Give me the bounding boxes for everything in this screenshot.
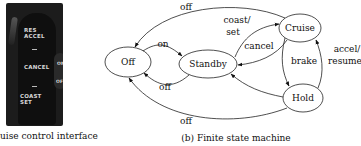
label-cruise-off: off [180,2,192,12]
label-standby-cruise-2: set [226,27,240,37]
state-hold-label: Hold [292,93,314,103]
label-off-standby: on [157,39,168,49]
edge-cruise-hold [282,38,289,86]
state-cruise-label: Cruise [285,23,315,33]
label-cruise-hold: brake [291,56,317,66]
label-standby-cruise-1: coast/ [223,15,251,25]
label-hold-cruise-2: resume [328,56,361,66]
label-hold-cruise-1: accel/ [334,44,361,54]
label-hold-off: off [180,116,192,126]
edge-hold-standby [231,74,283,97]
label-standby-off: off [159,82,171,92]
state-off-label: Off [121,57,135,67]
fsm-diagram: Off Standby Cruise Hold off on off coast… [0,0,361,146]
edge-hold-off [129,78,287,119]
label-cruise-standby: cancel [244,41,274,51]
caption-b: (b) Finite state machine [181,133,290,143]
state-standby-label: Standby [189,59,227,69]
